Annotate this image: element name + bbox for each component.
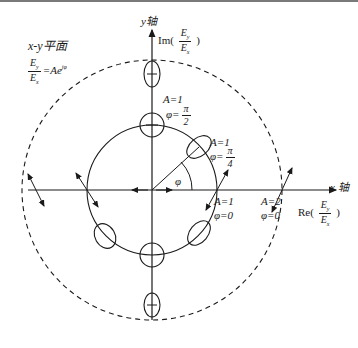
im-num-sub: y <box>187 34 190 40</box>
ratio-numerator-sub: y <box>36 64 39 70</box>
y-axis-complex-label: Im( Ey Ex ) <box>158 28 200 55</box>
phi-pi4-den: 4 <box>228 158 233 169</box>
ratio-formula: Ey Ex =Aejφ <box>26 58 67 85</box>
im-fraction: Ey Ex <box>179 28 192 55</box>
x-axis-label: x 轴 <box>330 182 349 193</box>
phi-pi2-fraction: π2 <box>182 104 191 127</box>
x-axis-complex-label: Re( Ey Ex ) <box>298 200 340 227</box>
annotation-a1-phi0-amplitude: A=1 <box>214 196 234 207</box>
re-label: Re( <box>298 206 314 218</box>
re-den-sub: x <box>327 221 330 227</box>
annotation-a1-phi-pi2-phase: φ=π2 <box>166 104 193 127</box>
ratio-rhs: =Ae <box>43 64 62 76</box>
phase-angle-arc <box>181 162 192 190</box>
re-fraction: Ey Ex <box>319 200 332 227</box>
im-close: ) <box>196 34 200 46</box>
annotation-a2-phi0-phase: φ=0 <box>261 210 280 221</box>
annotation-a1-phi-pi4-phase: φ=π4 <box>210 146 237 169</box>
re-close: ) <box>336 206 340 218</box>
y-axis-label-text: y轴 <box>141 15 157 27</box>
re-num-sub: y <box>327 206 330 212</box>
polarization-ellipse-lower-left <box>90 220 120 253</box>
phi-pi2-prefix: φ= <box>166 108 180 120</box>
phi-pi4-fraction: π4 <box>226 146 235 169</box>
im-den-sub: x <box>187 49 190 55</box>
plane-title: x-y平面 <box>28 40 67 52</box>
ratio-fraction: Ey Ex <box>28 58 41 85</box>
phi-pi4-num: π <box>226 146 235 158</box>
phi-pi4-prefix: φ= <box>210 150 224 162</box>
angle-phi-label: φ <box>175 176 181 187</box>
annotation-a2-phi0-amplitude: A=2 <box>261 196 281 207</box>
annotation-a1-phi0-phase: φ=0 <box>214 210 233 221</box>
im-label: Im( <box>158 34 174 46</box>
ratio-denominator-sub: x <box>36 79 39 85</box>
phi-pi2-den: 2 <box>184 116 189 127</box>
ratio-rhs-sup: jφ <box>62 64 67 70</box>
phi-pi2-num: π <box>182 104 191 116</box>
y-axis-label: y轴 <box>141 16 157 27</box>
